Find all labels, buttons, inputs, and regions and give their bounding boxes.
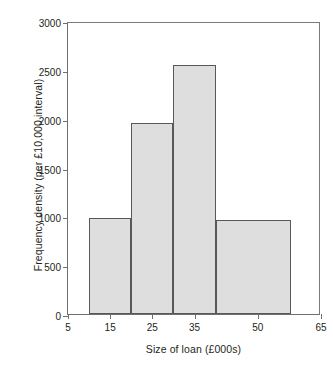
x-axis-tick-label: 25 xyxy=(147,322,158,333)
plot-inner: 05001000150020002500300051525355065 xyxy=(68,23,319,314)
x-axis-title: Size of loan (£000s) xyxy=(67,343,320,355)
x-axis-tick xyxy=(152,314,153,319)
x-axis-tick xyxy=(68,314,69,319)
y-axis-tick xyxy=(63,72,68,73)
y-axis-tick xyxy=(63,23,68,24)
y-axis-tick-label: 0 xyxy=(55,311,61,322)
x-axis-tick xyxy=(110,314,111,319)
x-axis-tick xyxy=(258,314,259,319)
x-axis-tick-label: 65 xyxy=(315,322,326,333)
x-axis-tick-label: 5 xyxy=(65,322,71,333)
y-axis-tick xyxy=(63,121,68,122)
histogram-bar xyxy=(89,218,131,314)
histogram-bar xyxy=(216,220,292,314)
y-axis-tick-label: 2500 xyxy=(39,66,61,77)
plot-area: 05001000150020002500300051525355065 xyxy=(67,22,320,315)
y-axis-tick xyxy=(63,170,68,171)
x-axis-tick xyxy=(321,314,322,319)
x-axis-tick-label: 15 xyxy=(105,322,116,333)
histogram-figure: Frequency density (per £10,000 interval)… xyxy=(0,0,333,366)
y-axis-tick-label: 3000 xyxy=(39,18,61,29)
y-axis-tick xyxy=(63,218,68,219)
y-axis-tick-label: 1500 xyxy=(39,164,61,175)
histogram-bar xyxy=(131,123,173,314)
y-axis-tick-label: 1000 xyxy=(39,213,61,224)
x-axis-tick-label: 50 xyxy=(252,322,263,333)
y-axis-tick-label: 500 xyxy=(44,262,61,273)
x-axis-tick-label: 35 xyxy=(189,322,200,333)
histogram-bar xyxy=(173,65,215,314)
y-axis-tick xyxy=(63,267,68,268)
y-axis-tick-label: 2000 xyxy=(39,115,61,126)
x-axis-tick xyxy=(195,314,196,319)
